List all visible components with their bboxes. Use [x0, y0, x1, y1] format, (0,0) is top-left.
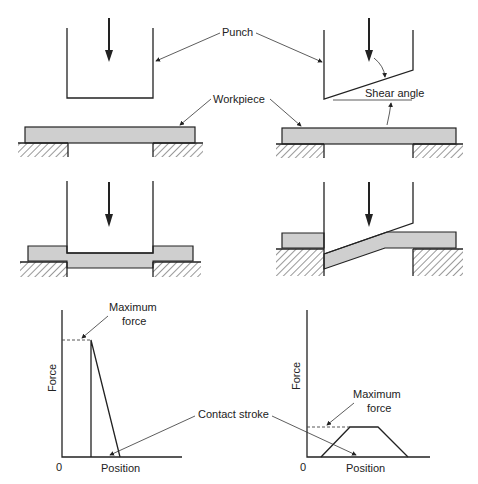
origin-label: 0	[56, 461, 62, 473]
position-axis-label: Position	[101, 462, 140, 474]
down-arrow-icon	[365, 214, 373, 227]
force-axis-label: Force	[46, 364, 58, 392]
max-force-label: Maximum	[353, 388, 401, 400]
max-force-label: force	[122, 315, 146, 327]
down-arrow-icon	[105, 50, 113, 62]
max-force-label: force	[367, 402, 391, 414]
shear-punch-during	[276, 182, 463, 276]
position-axis-label: Position	[346, 462, 385, 474]
workpiece-label: Workpiece	[213, 93, 265, 105]
flat-punch-before	[18, 18, 203, 157]
origin-label: 0	[300, 461, 306, 473]
punch-label: Punch	[222, 26, 253, 38]
punching-diagram: Punch Workpiece Shear angle Maximum forc…	[0, 0, 478, 484]
flat-punch-during	[20, 181, 201, 277]
force-axis-label: Force	[290, 362, 302, 390]
contact-stroke-label: Contact stroke	[198, 408, 269, 420]
down-arrow-icon	[105, 214, 113, 227]
force-graph-shear: Maximum force Force 0 Position	[290, 310, 430, 474]
max-force-label: Maximum	[109, 301, 157, 313]
shear-angle-label: Shear angle	[365, 87, 424, 99]
force-graph-flat: Maximum force Force 0 Position	[46, 301, 182, 474]
down-arrow-icon	[365, 50, 373, 62]
